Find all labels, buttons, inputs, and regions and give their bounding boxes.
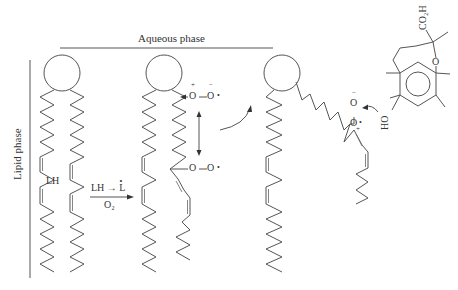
reaction-condition-top: LH → L• <box>91 183 128 193</box>
aqueous-phase-label: Aqueous phase <box>138 33 205 44</box>
phospholipid-head-1 <box>44 55 80 91</box>
carboxyl-label: CO₂H <box>418 5 428 30</box>
charge-minus-mol3: − <box>352 90 356 97</box>
double-bond-2b-1 <box>176 181 182 192</box>
fatty-acid-tail-2b <box>170 90 190 260</box>
peroxyl-O2-upper: O <box>207 91 214 101</box>
down-arrowhead-icon <box>197 150 202 156</box>
reaction-condition-bottom: O₂ <box>104 200 115 210</box>
curved-arrowhead-icon <box>247 105 252 112</box>
peroxyl-O1-lower: O <box>189 163 196 173</box>
radical-dot-lower: • <box>217 164 220 172</box>
reaction-arrowhead-icon <box>127 195 134 200</box>
ring-oxygen-label: O <box>432 57 439 67</box>
lipid-LH-label: LH <box>46 176 59 186</box>
fatty-acid-tail-2a <box>142 90 156 272</box>
peroxyl-O1-mol3: O <box>350 98 357 108</box>
curved-arrow <box>220 108 250 130</box>
fatty-acid-tail-3a <box>266 90 282 272</box>
peroxyl-O1-upper: O <box>189 91 196 101</box>
phospholipid-head-2 <box>146 55 182 91</box>
charge-plus-mol3: + <box>356 126 360 133</box>
radical-dot-upper: • <box>217 92 220 100</box>
charge-plus-upper: + <box>191 82 195 89</box>
radical-dot: • <box>119 177 122 186</box>
trolox-structure <box>386 30 450 110</box>
charge-minus-upper: − <box>209 82 213 89</box>
hydroxyl-label: HO <box>380 116 390 130</box>
antioxidant-arrowhead-icon <box>362 105 368 111</box>
fatty-acid-tail-1b <box>70 90 84 272</box>
up-arrowhead-icon <box>197 111 202 117</box>
double-bond-3b-1 <box>356 134 362 146</box>
peroxyl-O2-lower: O <box>207 163 214 173</box>
phospholipid-head-3 <box>264 55 300 91</box>
lipid-phase-label: Lipid phase <box>12 128 23 180</box>
lipid-peroxidation-diagram <box>0 0 458 290</box>
